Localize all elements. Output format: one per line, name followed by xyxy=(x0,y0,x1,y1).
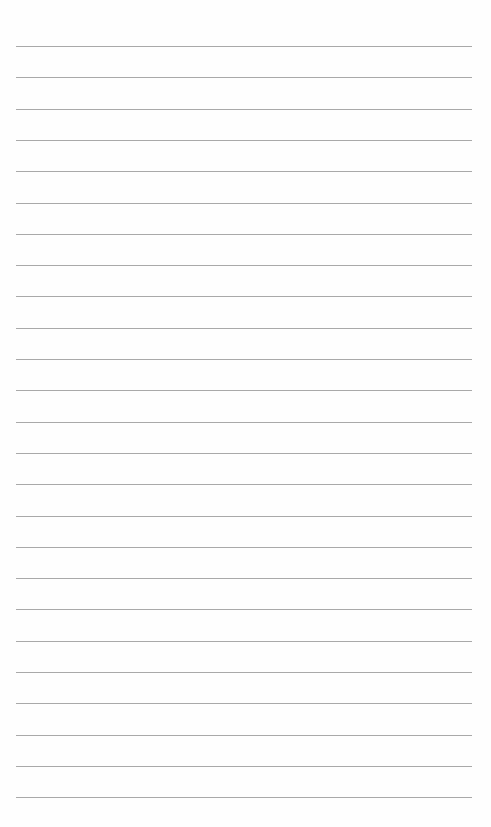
ruled-line xyxy=(16,641,472,642)
ruled-line xyxy=(16,77,472,78)
ruled-line xyxy=(16,484,472,485)
ruled-line xyxy=(16,296,472,297)
ruled-line xyxy=(16,797,472,798)
ruled-line xyxy=(16,703,472,704)
ruled-line xyxy=(16,390,472,391)
ruled-line xyxy=(16,203,472,204)
ruled-line xyxy=(16,766,472,767)
ruled-line xyxy=(16,265,472,266)
ruled-line xyxy=(16,140,472,141)
ruled-line xyxy=(16,109,472,110)
ruled-line xyxy=(16,516,472,517)
ruled-line xyxy=(16,422,472,423)
ruled-line xyxy=(16,672,472,673)
ruled-line xyxy=(16,234,472,235)
ruled-line xyxy=(16,46,472,47)
ruled-line xyxy=(16,171,472,172)
ruled-line xyxy=(16,609,472,610)
ruled-line xyxy=(16,578,472,579)
ruled-line xyxy=(16,547,472,548)
ruled-line xyxy=(16,328,472,329)
ruled-line xyxy=(16,735,472,736)
ruled-line xyxy=(16,453,472,454)
ruled-line xyxy=(16,359,472,360)
ruled-page xyxy=(0,0,491,827)
